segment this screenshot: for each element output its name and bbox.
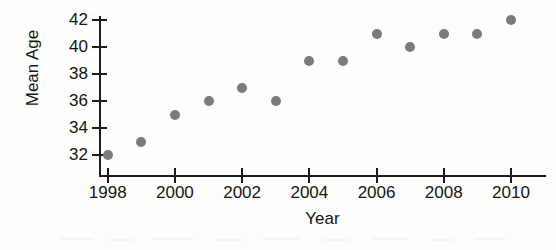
data-point	[204, 96, 214, 106]
data-point	[372, 29, 382, 39]
x-tick-label: 1998	[73, 184, 143, 201]
y-tick-label: 32	[46, 146, 88, 163]
x-axis-title: Year	[99, 209, 546, 229]
y-tick-label: 36	[46, 92, 88, 109]
y-axis-title: Mean Age	[23, 13, 43, 123]
y-tick-mark	[92, 19, 107, 21]
y-tick-mark	[92, 127, 107, 129]
scan-artifact	[372, 238, 408, 240]
x-tick-label: 2000	[140, 184, 210, 201]
scan-artifact	[474, 238, 506, 240]
x-tick-mark	[443, 168, 445, 183]
x-tick-mark	[376, 168, 378, 183]
data-point	[405, 42, 415, 52]
data-point	[271, 96, 281, 106]
plot-area: 323436384042 199820002002200420062008201…	[0, 0, 556, 250]
y-tick-label: 34	[46, 119, 88, 136]
data-point	[136, 137, 146, 147]
data-point	[237, 83, 247, 93]
data-point	[439, 29, 449, 39]
x-tick-label: 2010	[476, 184, 546, 201]
x-axis-line	[99, 175, 546, 177]
x-tick-label: 2008	[409, 184, 479, 201]
y-tick-mark	[92, 46, 107, 48]
x-tick-label: 2002	[207, 184, 277, 201]
x-tick-label: 2006	[342, 184, 412, 201]
scan-artifact	[430, 239, 454, 241]
data-point	[170, 110, 180, 120]
x-tick-label: 2004	[274, 184, 344, 201]
scan-artifact	[60, 238, 94, 240]
y-tick-label: 42	[46, 11, 88, 28]
data-point	[506, 15, 516, 25]
x-tick-mark	[510, 168, 512, 183]
x-tick-mark	[241, 168, 243, 183]
scatter-chart-figure: 323436384042 199820002002200420062008201…	[0, 0, 556, 250]
y-tick-mark	[92, 73, 107, 75]
scan-artifact	[214, 239, 244, 241]
x-tick-mark	[107, 168, 109, 183]
data-point	[304, 56, 314, 66]
y-axis-line	[99, 16, 101, 176]
y-tick-label: 40	[46, 38, 88, 55]
x-tick-mark	[174, 168, 176, 183]
scan-artifact	[152, 238, 194, 240]
data-point	[103, 150, 113, 160]
scan-artifact	[108, 239, 134, 241]
data-point	[472, 29, 482, 39]
data-point	[338, 56, 348, 66]
y-tick-label: 38	[46, 65, 88, 82]
y-tick-mark	[92, 100, 107, 102]
x-tick-mark	[308, 168, 310, 183]
scan-artifact	[262, 238, 300, 240]
scan-artifact	[322, 239, 350, 241]
